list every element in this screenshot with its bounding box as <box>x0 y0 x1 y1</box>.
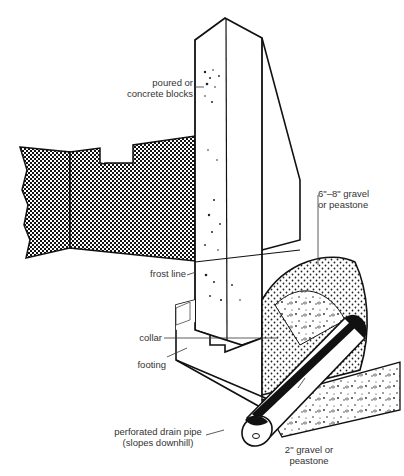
basement-wall-left <box>20 147 70 258</box>
label-wall: poured or concrete blocks <box>118 77 193 99</box>
label-footing: footing <box>120 359 166 370</box>
basement-wall-back <box>70 136 195 261</box>
label-gravel-lower-line2: peastone <box>274 455 344 466</box>
label-gravel-lower-line1: 2" gravel or <box>274 444 344 455</box>
label-frost-line: frost line <box>120 268 186 279</box>
label-drain-pipe-line2: (slopes downhill) <box>108 437 208 448</box>
label-gravel-upper-line1: 6"–8" gravel <box>318 188 369 199</box>
label-collar: collar <box>120 332 162 343</box>
label-gravel-lower: 2" gravel or peastone <box>274 444 344 466</box>
label-gravel-upper-line2: or peastone <box>318 199 369 210</box>
label-gravel-upper: 6"–8" gravel or peastone <box>318 188 369 210</box>
label-wall-line1: poured or <box>118 77 193 88</box>
foundation-diagram <box>0 0 404 476</box>
label-drain-pipe: perforated drain pipe (slopes downhill) <box>108 426 208 448</box>
label-wall-line2: concrete blocks <box>118 88 193 99</box>
label-drain-pipe-line1: perforated drain pipe <box>108 426 208 437</box>
